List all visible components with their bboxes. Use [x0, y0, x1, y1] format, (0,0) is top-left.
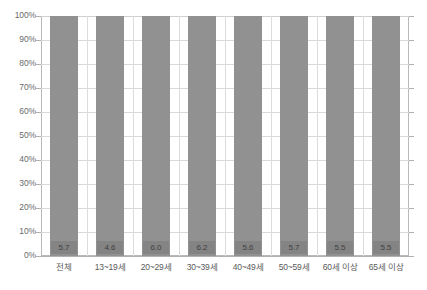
- gridline: [41, 256, 409, 257]
- bars-group: 5.74.66.06.25.65.75.55.5: [41, 16, 409, 256]
- bar-data-label: 6.0: [143, 241, 169, 254]
- x-axis-category-label: 40~49세: [225, 262, 271, 273]
- bar-chart: 100%90%80%70%60%50%40%30%20%10%0% 5.74.6…: [0, 0, 427, 290]
- y-axis-tick-label: 0%: [0, 251, 36, 260]
- bar[interactable]: [280, 16, 308, 256]
- bar[interactable]: [96, 16, 124, 256]
- bar-slot: 5.5: [363, 16, 409, 256]
- bar-slot: 5.5: [317, 16, 363, 256]
- bar-slot: 6.0: [133, 16, 179, 256]
- y-axis-tick-label: 60%: [0, 107, 36, 116]
- y-axis-tick-label: 20%: [0, 203, 36, 212]
- y-axis-tick-label: 90%: [0, 35, 36, 44]
- y-axis-tick-label: 30%: [0, 179, 36, 188]
- y-axis-tick-label: 40%: [0, 155, 36, 164]
- category-divider: [317, 16, 318, 256]
- bar-data-label: 5.7: [281, 241, 307, 254]
- bar-data-label: 5.6: [235, 241, 261, 254]
- bar[interactable]: [372, 16, 400, 256]
- bar[interactable]: [326, 16, 354, 256]
- bar-slot: 5.6: [225, 16, 271, 256]
- bar[interactable]: [234, 16, 262, 256]
- bar[interactable]: [50, 16, 78, 256]
- category-divider: [363, 16, 364, 256]
- x-axis-category-label: 50~59세: [271, 262, 317, 273]
- y-axis-tick-mark-right: [409, 184, 414, 185]
- bar-data-label: 4.6: [97, 241, 123, 254]
- bar-data-label: 5.5: [327, 241, 353, 254]
- y-axis-tick-mark-right: [409, 208, 414, 209]
- y-axis-tick-mark: [36, 256, 41, 257]
- y-axis-tick-mark-right: [409, 232, 414, 233]
- bar-slot: 5.7: [271, 16, 317, 256]
- x-axis-category-label: 전체: [41, 262, 87, 273]
- y-axis-tick-mark-right: [409, 136, 414, 137]
- y-axis-tick-label: 10%: [0, 227, 36, 236]
- y-axis-tick-label: 70%: [0, 83, 36, 92]
- bar-slot: 6.2: [179, 16, 225, 256]
- y-axis-tick-mark-right: [409, 64, 414, 65]
- category-divider: [179, 16, 180, 256]
- x-axis-category-label: 13~19세: [87, 262, 133, 273]
- y-axis-tick-label: 80%: [0, 59, 36, 68]
- bar-data-label: 5.7: [51, 241, 77, 254]
- x-axis-category-label: 20~29세: [133, 262, 179, 273]
- y-axis-tick-mark-right: [409, 40, 414, 41]
- y-axis-tick-label: 100%: [0, 11, 36, 20]
- y-axis-tick-mark-right: [409, 112, 414, 113]
- category-divider: [87, 16, 88, 256]
- y-axis-tick-mark-right: [409, 256, 414, 257]
- y-axis-tick-mark-right: [409, 160, 414, 161]
- bar-slot: 5.7: [41, 16, 87, 256]
- y-axis-tick-mark-right: [409, 88, 414, 89]
- category-divider: [133, 16, 134, 256]
- category-divider: [271, 16, 272, 256]
- bar-data-label: 5.5: [373, 241, 399, 254]
- x-axis-category-label: 30~39세: [179, 262, 225, 273]
- category-divider: [225, 16, 226, 256]
- x-axis-category-label: 65세 이상: [363, 262, 409, 273]
- bar-slot: 4.6: [87, 16, 133, 256]
- y-axis-tick-mark-right: [409, 16, 414, 17]
- x-axis-labels: 전체13~19세20~29세30~39세40~49세50~59세60세 이상65…: [41, 262, 409, 282]
- bar[interactable]: [142, 16, 170, 256]
- bar[interactable]: [188, 16, 216, 256]
- y-axis-tick-label: 50%: [0, 131, 36, 140]
- bar-data-label: 6.2: [189, 241, 215, 254]
- x-axis-category-label: 60세 이상: [317, 262, 363, 273]
